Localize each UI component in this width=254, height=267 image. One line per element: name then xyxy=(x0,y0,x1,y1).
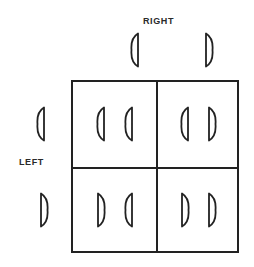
right-half-lens-icon xyxy=(96,192,106,228)
cell-r2c1-glyph-2 xyxy=(124,192,134,228)
right-half-lens-icon xyxy=(180,192,190,228)
cell-r1c1-glyph-2 xyxy=(124,106,134,142)
cell-r2c1-glyph-1 xyxy=(96,192,106,228)
cell-r2c2-glyph-1 xyxy=(180,192,190,228)
right-half-lens-icon xyxy=(39,192,49,228)
cell-r2c2-glyph-2 xyxy=(207,192,217,228)
left-label: LEFT xyxy=(19,158,44,167)
right-half-lens-icon xyxy=(207,106,217,142)
right-label: RIGHT xyxy=(143,17,174,26)
row-header-glyph-1 xyxy=(36,106,46,142)
left-half-lens-icon xyxy=(124,192,134,228)
left-half-lens-icon xyxy=(124,106,134,142)
left-half-lens-icon xyxy=(130,32,140,68)
left-half-lens-icon xyxy=(96,106,106,142)
column-header-glyph-2 xyxy=(204,32,214,68)
row-header-glyph-2 xyxy=(39,192,49,228)
right-half-lens-icon xyxy=(207,192,217,228)
cell-r1c2-glyph-1 xyxy=(180,106,190,142)
left-half-lens-icon xyxy=(180,106,190,142)
column-header-glyph-1 xyxy=(130,32,140,68)
left-half-lens-icon xyxy=(36,106,46,142)
right-half-lens-icon xyxy=(204,32,214,68)
cell-r1c1-glyph-1 xyxy=(96,106,106,142)
cell-r1c2-glyph-2 xyxy=(207,106,217,142)
grid-horizontal-divider xyxy=(73,167,237,169)
